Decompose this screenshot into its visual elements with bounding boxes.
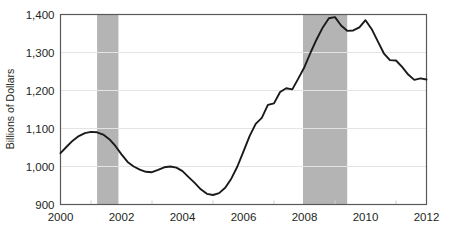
x-tick-label-2002: 2002 bbox=[109, 211, 135, 223]
recession-band-2001 bbox=[97, 15, 118, 205]
y-tick-label-900: 900 bbox=[35, 199, 54, 211]
x-tick-label-2012: 2012 bbox=[414, 211, 440, 223]
recession-band-2008 bbox=[303, 15, 347, 205]
y-tick-label-1200: 1,200 bbox=[26, 85, 55, 97]
chart-figure: 9001,0001,1001,2001,3001,400 20002002200… bbox=[0, 0, 449, 236]
y-tick-label-1100: 1,100 bbox=[26, 123, 55, 135]
y-tick-label-1000: 1,000 bbox=[26, 161, 55, 173]
x-tick-label-2000: 2000 bbox=[48, 211, 74, 223]
line-chart: 9001,0001,1001,2001,3001,400 20002002200… bbox=[0, 0, 449, 236]
chart-background bbox=[0, 0, 449, 236]
x-tick-label-2010: 2010 bbox=[353, 211, 379, 223]
y-tick-label-1400: 1,400 bbox=[26, 9, 55, 21]
x-tick-label-2008: 2008 bbox=[292, 211, 318, 223]
x-tick-label-2004: 2004 bbox=[170, 211, 196, 223]
y-axis-title: Billions of Dollars bbox=[4, 69, 16, 150]
x-tick-label-2006: 2006 bbox=[231, 211, 257, 223]
y-tick-label-1300: 1,300 bbox=[26, 47, 55, 59]
